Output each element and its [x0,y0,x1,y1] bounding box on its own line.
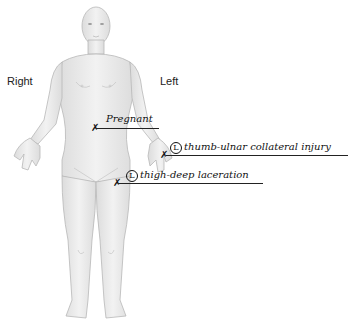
annotation-text: thigh-deep laceration [140,169,249,180]
body-diagram: Right Left ✗ Pregnant ✗ Lthumb-ulnar col… [0,0,354,324]
orientation-label-right: Right [7,75,33,87]
annotation-leader-line [118,183,263,184]
annotation-thigh-laceration: Lthigh-deep laceration [126,169,249,182]
left-side-circle-icon: L [170,142,182,154]
annotation-leader-line [96,128,159,129]
left-side-circle-icon: L [126,170,138,182]
annotation-text: Pregnant [106,113,153,124]
annotation-leader-line [166,155,348,156]
annotation-thumb-injury: Lthumb-ulnar collateral injury [170,141,331,154]
orientation-label-left: Left [160,75,178,87]
annotation-pregnant: Pregnant [106,113,153,125]
human-body-figure [0,0,354,324]
annotation-text: thumb-ulnar collateral injury [184,141,331,152]
